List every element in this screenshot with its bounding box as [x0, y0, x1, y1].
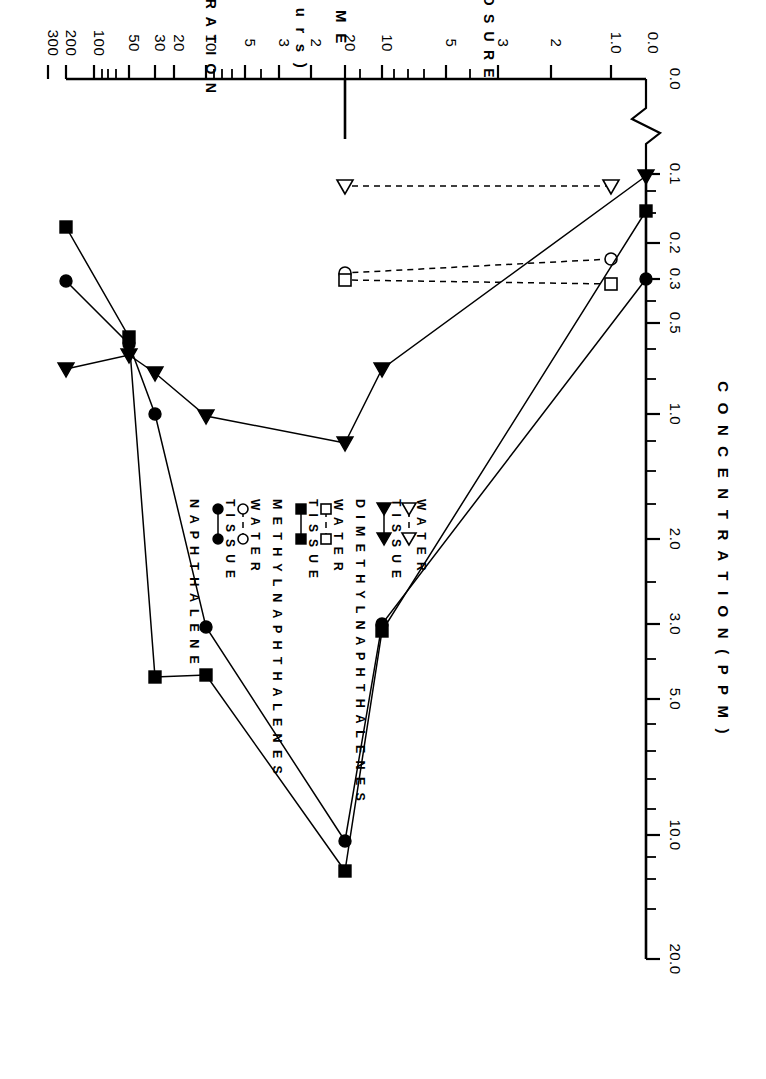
- series-naphthalene-water: [339, 253, 617, 279]
- chart-svg: 20.0 10.0 5.0 3.0 2.0 1.0 0.5 0.3 0.2 0.…: [0, 0, 766, 1079]
- data-point: [200, 669, 212, 681]
- legend-marker-open-square: [321, 534, 331, 544]
- legend-row-label: W A T E R: [414, 499, 428, 573]
- y-tick-label: 0.5: [667, 312, 684, 334]
- x-tick-label: 10: [379, 34, 396, 52]
- data-point: [149, 408, 161, 420]
- data-point: [337, 180, 353, 194]
- data-point: [638, 170, 654, 184]
- x-tick-label: 5: [443, 39, 460, 48]
- x-tick-label: 0.0: [645, 32, 662, 54]
- legend-group-title: N A P H T H A L E N E: [187, 499, 201, 666]
- data-point: [376, 625, 388, 637]
- data-point: [60, 221, 72, 233]
- series-dimethylnaphthalenes-water: [337, 180, 619, 194]
- y-tick-marks: [646, 174, 660, 959]
- y-tick-label: 10.0: [667, 819, 684, 850]
- y-tick-label: 5.0: [667, 688, 684, 710]
- x-tick-label: 20: [171, 34, 188, 52]
- data-point: [123, 331, 135, 343]
- series-dimethylnaphthalenes-tissue: [58, 170, 654, 451]
- figure-canvas: 20.0 10.0 5.0 3.0 2.0 1.0 0.5 0.3 0.2 0.…: [0, 0, 766, 1079]
- x-tick-label: 3: [276, 39, 293, 48]
- legend-marker-open-triangle: [402, 503, 416, 515]
- x-axis-title-time: T I M E: [333, 0, 350, 46]
- legend-group-title: M E T H Y L N A P H T H A L E N E S: [270, 499, 284, 776]
- legend-row-label: W A T E R: [248, 499, 262, 573]
- legend-marker-filled-circle: [213, 534, 223, 544]
- x-ticks-exposure: [345, 65, 611, 79]
- y-axis-title: C O N C E N T R A T I O N ( P P M ): [715, 381, 732, 736]
- data-point: [603, 180, 619, 194]
- y-tick-label: 3.0: [667, 613, 684, 635]
- data-point: [149, 671, 161, 683]
- series-methylnaphthalenes-water: [339, 274, 617, 290]
- data-point: [339, 865, 351, 877]
- x-tick-label: 30: [152, 34, 169, 52]
- x-tick-label: 1.0: [608, 32, 625, 54]
- x-ticks-depuration: [48, 65, 311, 79]
- y-tick-labels: 20.0 10.0 5.0 3.0 2.0 1.0 0.5 0.3 0.2 0.…: [667, 68, 684, 975]
- y-tick-label: 0.3: [667, 268, 684, 290]
- y-tick-label: 20.0: [667, 943, 684, 974]
- legend-marker-open-circle: [238, 534, 248, 544]
- data-point: [60, 275, 72, 287]
- x-tick-labels-exposure: 0.0 1.0 2 3 5 10 20: [342, 32, 662, 54]
- x-tick-label: 50: [126, 34, 143, 52]
- data-point: [640, 205, 652, 217]
- legend-marker-filled-square: [296, 534, 306, 544]
- data-point: [58, 363, 74, 377]
- legend-row-label: T I S S U E: [389, 499, 403, 580]
- legend: N A P H T H A L E N E T I S S U E W A T …: [187, 499, 428, 803]
- legend-group-dimethylnaphthalenes: D I M E T H Y L N A P H T H A L E N E S …: [353, 499, 428, 803]
- x-tick-label: 2: [548, 39, 565, 48]
- data-point: [147, 367, 163, 381]
- legend-marker-open-square: [321, 504, 331, 514]
- x-tick-label: 200: [63, 30, 80, 57]
- x-tick-label: 300: [45, 30, 62, 57]
- legend-row-label: T I S S U E: [223, 499, 237, 580]
- x-axis-title-hours: ( H o u r s ): [293, 0, 310, 71]
- x-tick-label: 100: [91, 30, 108, 57]
- y-tick-label: 0.1: [667, 163, 684, 185]
- legend-marker-filled-triangle: [377, 503, 391, 515]
- legend-marker-open-triangle: [402, 533, 416, 545]
- legend-row-label: W A T E R: [331, 499, 345, 573]
- legend-marker-filled-triangle: [377, 533, 391, 545]
- legend-group-methylnaphthalenes: M E T H Y L N A P H T H A L E N E S T I …: [270, 499, 345, 776]
- y-tick-label: 0.0: [667, 68, 684, 90]
- legend-marker-filled-circle: [213, 504, 223, 514]
- data-point: [374, 363, 390, 377]
- y-tick-label: 2.0: [667, 528, 684, 550]
- legend-marker-filled-square: [296, 504, 306, 514]
- depuration-phase-label: D E P U R A T I O N: [203, 0, 219, 95]
- legend-row-label: T I S S U E: [306, 499, 320, 580]
- x-tick-labels-depuration: 2 3 5 10 20 30 50 100 200 300: [45, 30, 325, 57]
- legend-group-title: D I M E T H Y L N A P H T H A L E N E S: [353, 499, 367, 803]
- figure-page: 20.0 10.0 5.0 3.0 2.0 1.0 0.5 0.3 0.2 0.…: [0, 0, 766, 1079]
- data-point: [337, 437, 353, 451]
- data-point: [640, 273, 652, 285]
- data-point: [605, 278, 617, 290]
- y-tick-label: 0.2: [667, 232, 684, 254]
- rotated-figure-wrapper: 20.0 10.0 5.0 3.0 2.0 1.0 0.5 0.3 0.2 0.…: [0, 0, 766, 1079]
- legend-marker-open-circle: [238, 504, 248, 514]
- data-point: [339, 274, 351, 286]
- legend-group-naphthalene: N A P H T H A L E N E T I S S U E W A T …: [187, 499, 262, 666]
- x-tick-label: 5: [242, 39, 259, 48]
- exposure-phase-label: E X P O S U R E: [481, 0, 497, 80]
- y-tick-label: 1.0: [667, 403, 684, 425]
